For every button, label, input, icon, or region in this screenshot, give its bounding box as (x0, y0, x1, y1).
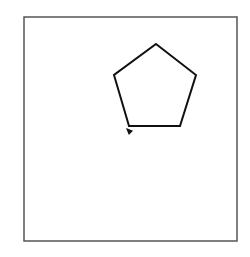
drawing-canvas (0, 0, 250, 257)
turtle-arrow-icon (124, 126, 133, 135)
canvas-frame (24, 17, 237, 241)
pentagon-shape (114, 44, 196, 126)
